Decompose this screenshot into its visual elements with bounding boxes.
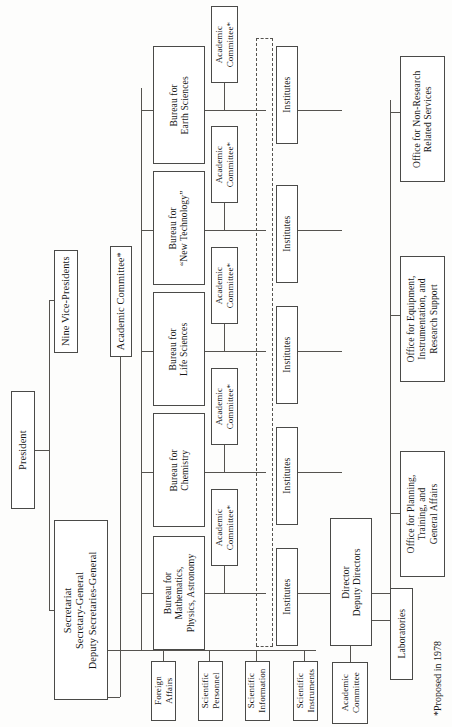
node-institutes-4-label: Institutes: [281, 216, 292, 252]
node-academic-committee-1[interactable]: Academic Committee*: [211, 489, 238, 566]
node-secretariat-line-1: Secretariat: [63, 587, 74, 633]
node-academic-committee-4-line-1: Academic: [214, 146, 224, 183]
node-office-2-line-2: Instrumentation, and: [417, 278, 428, 359]
node-office-planning-training-general-affairs[interactable]: Office for Planning, Training, and Gener…: [400, 451, 445, 577]
connector-academic-committee-top-to-bus: [108, 697, 120, 698]
node-nine-vice-presidents-label: Nine Vice-Presidents: [60, 257, 72, 347]
node-institutes-1[interactable]: Institutes: [276, 548, 298, 646]
connector-institutes-to-director: [298, 593, 330, 594]
node-bureau-1-line-3: Physics, Astronomy: [185, 554, 196, 633]
node-bureau-3-line-2: Life Sciences: [179, 322, 190, 375]
node-president-label: President: [17, 430, 29, 470]
node-office-equipment-instrumentation-research-support[interactable]: Office for Equipment, Instrumentation, a…: [400, 256, 445, 382]
node-secretariat-line-3: Deputy Secretaries-General: [87, 551, 98, 669]
node-department-1-line-2: Affairs: [164, 678, 174, 704]
node-institutes-5-label: Institutes: [281, 77, 292, 113]
connector-department-stub-4: [304, 650, 305, 661]
connector-bus-to-bureau-5: [141, 110, 153, 111]
connector-institutes-2-right: [298, 472, 342, 473]
node-department-4-line-1: Scientific: [295, 673, 305, 709]
connector-institutes-4-right: [298, 230, 342, 231]
node-bureau-1-line-2: Mathematics,: [173, 566, 184, 619]
connector-secretariat-to-bureau-bus: [108, 650, 142, 651]
node-institutes-2[interactable]: Institutes: [276, 427, 298, 525]
node-laboratories[interactable]: Laboratories: [390, 588, 413, 680]
node-director-label: Director Deputy Directors: [340, 548, 363, 616]
connector-bus-to-bureau-2: [141, 472, 153, 473]
node-academic-committee-4-line-2: Committee*: [225, 142, 235, 188]
node-department-3-line-1: Scientific: [247, 673, 257, 709]
connector-offices-stub-3: [390, 112, 400, 113]
node-bureau-5-label: Bureau for Earth Sciences: [168, 76, 191, 134]
node-academic-committee-institute-line-2: Committee: [350, 673, 360, 714]
node-department-scientific-personnel[interactable]: Scientific Personnel: [198, 661, 223, 721]
node-academic-committee-5[interactable]: Academic Committee*: [211, 6, 238, 83]
node-director-deputy-directors[interactable]: Director Deputy Directors: [330, 518, 372, 646]
node-office-non-research-related-services[interactable]: Office for Non-Research Related Services: [400, 56, 445, 182]
connector-bus-to-bureau-4: [141, 230, 153, 231]
node-bureau-earth-sciences[interactable]: Bureau for Earth Sciences: [153, 46, 205, 164]
node-bureau-chemistry[interactable]: Bureau for Chemistry: [153, 413, 205, 527]
node-academic-committee-5-label: Academic Committee*: [214, 22, 235, 68]
node-institutes-4[interactable]: Institutes: [276, 185, 298, 283]
node-academic-committee-2-line-1: Academic: [214, 388, 224, 425]
connector-tap-academic-committee-3: [224, 324, 225, 351]
node-academic-committee-3-label: Academic Committee*: [214, 263, 235, 309]
node-institutes-5[interactable]: Institutes: [276, 46, 298, 144]
node-institutes-3-label: Institutes: [281, 337, 292, 373]
connector-offices-stub-1: [390, 513, 400, 514]
node-academic-committee-4[interactable]: Academic Committee*: [211, 126, 238, 203]
node-academic-committee-institute[interactable]: Academic Committee: [332, 662, 368, 724]
node-department-1-line-1: Foreign: [153, 677, 163, 706]
node-bureau-4-line-2: “New Technology”: [179, 190, 190, 266]
footnote-proposed-1978: *Proposed in 1978: [432, 641, 443, 716]
node-bureau-4-label: Bureau for “New Technology”: [168, 190, 191, 266]
node-bureau-2-label: Bureau for Chemistry: [168, 449, 191, 491]
node-academic-committee-3[interactable]: Academic Committee*: [211, 247, 238, 324]
node-laboratories-label: Laboratories: [396, 609, 407, 659]
node-office-3-line-1: Office for Non-Research: [411, 70, 422, 167]
node-bureau-mathematics-physics-astronomy[interactable]: Bureau for Mathematics, Physics, Astrono…: [153, 536, 205, 650]
node-academic-committee-3-line-1: Academic: [214, 267, 224, 304]
connector-president-to-spine: [35, 450, 49, 451]
node-bureau-life-sciences[interactable]: Bureau for Life Sciences: [153, 292, 205, 406]
node-office-1-label: Office for Planning, Training, and Gener…: [406, 475, 440, 554]
node-department-foreign-affairs[interactable]: Foreign Affairs: [151, 661, 176, 721]
dashed-bracket-bottom-cap: [256, 646, 273, 647]
node-office-2-label: Office for Equipment, Instrumentation, a…: [406, 276, 440, 363]
node-director-line-2: Deputy Directors: [351, 548, 362, 616]
connector-director-to-academic-committee: [350, 646, 351, 662]
connector-bus-to-bureau-1: [141, 593, 153, 594]
node-nine-vice-presidents[interactable]: Nine Vice-Presidents: [54, 250, 78, 353]
node-office-3-line-2: Related Services: [423, 86, 434, 152]
node-institutes-3[interactable]: Institutes: [276, 306, 298, 404]
node-academic-committee-2[interactable]: Academic Committee*: [211, 368, 238, 445]
node-department-4-line-2: Instruments: [306, 669, 316, 713]
node-bureau-4-line-1: Bureau for: [168, 207, 179, 249]
node-academic-committee-4-label: Academic Committee*: [214, 142, 235, 188]
node-bureau-1-line-1: Bureau for: [162, 572, 173, 614]
node-department-scientific-information[interactable]: Scientific Information: [245, 661, 270, 721]
connector-academic-committee-top-stem: [120, 357, 121, 697]
dashed-bracket-right: [272, 38, 273, 646]
node-office-3-label: Office for Non-Research Related Services: [411, 70, 434, 167]
node-bureau-new-technology[interactable]: Bureau for “New Technology”: [153, 171, 205, 285]
node-office-1-line-2: Training, and: [417, 488, 428, 541]
connector-main-spine: [49, 300, 50, 610]
connector-department-stub-3: [256, 650, 257, 661]
node-department-1-label: Foreign Affairs: [153, 677, 174, 706]
node-secretariat[interactable]: Secretariat Secretary-General Deputy Sec…: [54, 520, 108, 700]
node-president[interactable]: President: [11, 391, 35, 509]
connector-department-stub-1: [163, 650, 164, 661]
node-academic-committee-5-line-1: Academic: [214, 26, 224, 63]
node-academic-committee-1-line-2: Committee*: [225, 505, 235, 551]
connector-institutes-5-right: [298, 110, 342, 111]
organization-chart: President Nine Vice-Presidents Academic …: [0, 0, 452, 727]
dashed-bracket-top-cap: [256, 38, 273, 39]
node-department-2-line-1: Scientific: [200, 673, 210, 709]
node-bureau-2-line-1: Bureau for: [168, 449, 179, 491]
node-department-scientific-instruments[interactable]: Scientific Instruments: [293, 661, 318, 721]
connector-bureau-bus: [141, 88, 142, 650]
node-office-1-line-3: General Affairs: [428, 484, 439, 545]
node-academic-committee-top[interactable]: Academic Committee*: [110, 246, 132, 357]
